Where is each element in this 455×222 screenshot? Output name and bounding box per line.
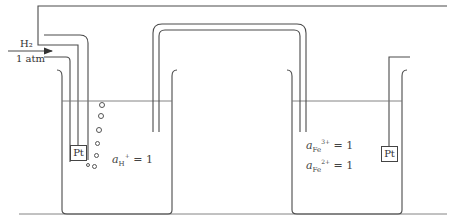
h2-tube-inner xyxy=(44,57,70,162)
h2-tube-outer xyxy=(44,35,88,160)
salt-bridge-inner xyxy=(159,30,300,132)
h2-bubble xyxy=(86,163,90,167)
h2-gas-label: H₂ xyxy=(20,38,33,49)
electrochemical-cell-diagram: H₂ 1 atm Pt Pt aH+ = 1 aFe3+ = 1 aFe2+ =… xyxy=(0,0,455,222)
diagram-lines xyxy=(0,0,455,222)
h2-bubble xyxy=(92,164,97,169)
h-ion-activity-label: aH+ = 1 xyxy=(112,152,153,168)
h2-bubble xyxy=(96,127,102,133)
h2-bubble xyxy=(98,113,104,119)
h2-bubble xyxy=(99,102,105,108)
h2-bubble xyxy=(94,153,99,158)
h2-bubble xyxy=(95,141,100,146)
salt-bridge-outer xyxy=(153,24,306,132)
left-pt-electrode: Pt xyxy=(70,145,87,161)
fe2-activity-label: aFe2+ = 1 xyxy=(306,158,353,174)
h2-inlet-arrowhead-icon xyxy=(44,48,53,55)
fe3-activity-label: aFe3+ = 1 xyxy=(306,138,353,154)
right-pt-electrode: Pt xyxy=(381,146,398,162)
pressure-label: 1 atm xyxy=(16,53,45,64)
